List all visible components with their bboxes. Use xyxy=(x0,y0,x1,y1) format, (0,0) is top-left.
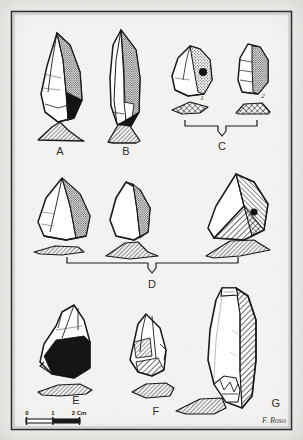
plate-drawing-canvas: 1 2 A B C xyxy=(0,0,303,440)
artifact-label-e: E xyxy=(72,394,80,406)
artist-signature: F. Roso xyxy=(261,416,286,425)
artifact-label-b: B xyxy=(122,145,130,157)
artifact-label-g: G xyxy=(272,397,281,409)
artifact-label-c: C xyxy=(218,140,226,152)
lithic-plate-figure: 1 2 A B C xyxy=(0,0,303,440)
artifact-sublabel-c2: 2 xyxy=(261,92,265,100)
artifact-label-a: A xyxy=(56,145,64,157)
artist-signature-text: F. Roso xyxy=(261,416,286,425)
artifact-sublabel-c1: 1 xyxy=(200,94,204,102)
artifact-label-d: D xyxy=(148,278,156,290)
scale-tick-2: 2 Cm xyxy=(72,410,87,416)
artifact-label-f: F xyxy=(152,405,159,417)
